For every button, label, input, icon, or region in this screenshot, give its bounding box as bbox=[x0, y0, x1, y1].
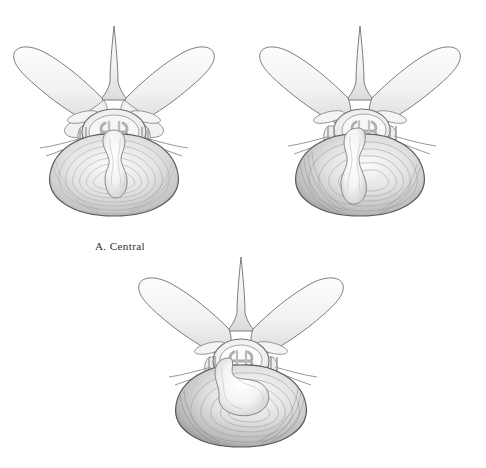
vertebra-illustration-a bbox=[6, 16, 222, 222]
spinous-process-c bbox=[227, 257, 255, 331]
vertebra-illustration-b bbox=[252, 16, 468, 222]
spinous-process-a bbox=[100, 26, 128, 100]
panel-a-central: A. Central bbox=[6, 16, 222, 222]
figure-plate: A. Central bbox=[0, 0, 486, 468]
vertebra-illustration-c bbox=[128, 245, 354, 453]
panel-b-centrolateral: B. Centrolateral bbox=[252, 16, 468, 222]
panel-c-lateral: C. Lateral bbox=[128, 245, 354, 453]
spinous-process-b bbox=[346, 26, 374, 100]
